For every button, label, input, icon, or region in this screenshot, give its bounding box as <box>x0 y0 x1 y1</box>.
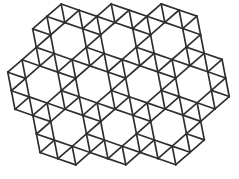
lattice-edge <box>208 72 226 78</box>
lattice-edge <box>8 60 22 72</box>
lattice-edge <box>33 29 37 48</box>
lattice-edge <box>211 78 225 90</box>
lattice-edge <box>36 47 40 66</box>
lattice-edge <box>161 78 175 90</box>
lattice-edge <box>29 97 33 116</box>
lattice-edge <box>179 97 197 103</box>
lattice-edge <box>108 60 122 72</box>
lattice-edge <box>172 47 186 59</box>
lattice-edges <box>8 4 229 165</box>
lattice-edge <box>136 47 140 66</box>
lattice-edge <box>47 4 61 16</box>
lattice-edge <box>126 66 140 78</box>
lattice-edge <box>72 60 76 79</box>
lattice-edge <box>151 109 165 121</box>
lattice-edge <box>197 16 201 35</box>
lattice-edge <box>140 152 158 158</box>
lattice-edge <box>72 134 86 146</box>
lattice-edge <box>197 90 211 102</box>
lattice-edge <box>86 47 104 53</box>
lattice-edge <box>33 29 51 35</box>
lattice-edge <box>136 47 154 53</box>
lattice-edge <box>51 122 55 141</box>
lattice-edge <box>97 16 101 35</box>
lattice-edge <box>165 10 179 22</box>
lattice-edge <box>76 78 80 97</box>
lattice-edge <box>190 66 208 72</box>
lattice-edge <box>204 53 222 59</box>
lattice-edge <box>172 60 176 79</box>
lattice-edge <box>136 134 140 153</box>
lattice-edge <box>158 72 162 91</box>
lattice-edge <box>47 103 51 122</box>
lattice-edge <box>172 60 190 66</box>
lattice-edge <box>154 140 158 159</box>
lattice-edge <box>22 60 26 79</box>
lattice-edge <box>201 121 205 140</box>
lattice-edge <box>129 97 147 103</box>
lattice-edge <box>86 35 100 47</box>
lattice-edge <box>97 4 111 16</box>
lattice-edge <box>208 59 222 71</box>
lattice-edge <box>104 53 122 59</box>
lattice-edge <box>97 16 115 22</box>
lattice-edge <box>86 134 90 153</box>
lattice-edge <box>97 91 111 103</box>
lattice-edge <box>8 72 12 91</box>
lattice-edge <box>122 146 140 152</box>
lattice-edge <box>33 16 47 28</box>
lattice-edge <box>61 4 65 23</box>
lattice-edge <box>126 78 130 97</box>
lattice-edge <box>108 146 122 158</box>
lattice-edge <box>108 159 126 165</box>
lattice-edge <box>186 121 200 133</box>
hexagonal-lattice-figure <box>0 0 239 179</box>
lattice-edge <box>90 66 108 72</box>
lattice-edge <box>36 122 50 134</box>
lattice-edge <box>197 103 201 122</box>
lattice-edge <box>111 78 125 90</box>
lattice-edge <box>40 153 58 159</box>
lattice-edge <box>115 97 129 109</box>
lattice-edge <box>22 47 36 59</box>
lattice-edge <box>97 103 115 109</box>
lattice-edge <box>154 53 172 59</box>
lattice-edge <box>140 53 154 65</box>
lattice-edge <box>58 72 62 91</box>
lattice-edge <box>47 16 65 22</box>
lattice-edge <box>208 72 212 91</box>
lattice-edge <box>79 10 83 29</box>
lattice-edge <box>172 134 186 146</box>
lattice-edge <box>190 53 204 65</box>
lattice-edge <box>186 35 200 47</box>
lattice-edge <box>40 54 54 66</box>
lattice-edge <box>72 60 90 66</box>
lattice-edge <box>40 140 54 152</box>
lattice-edge <box>111 91 129 97</box>
lattice-edge <box>201 35 205 54</box>
lattice-edge <box>86 134 104 140</box>
lattice-edge <box>222 59 226 78</box>
lattice-edge <box>161 4 165 23</box>
lattice-edge <box>158 146 172 158</box>
lattice-edge <box>136 35 150 47</box>
lattice-edge <box>133 115 151 121</box>
lattice-edge <box>115 10 129 22</box>
lattice-edge <box>90 53 104 65</box>
lattice-edge <box>40 66 58 72</box>
lattice-edge <box>165 97 179 109</box>
lattice-edge <box>147 16 151 35</box>
lattice-edge <box>61 91 79 97</box>
lattice-edge <box>147 103 151 122</box>
lattice-edge <box>211 90 215 109</box>
lattice-edge <box>97 103 101 122</box>
lattice-edge <box>201 109 215 121</box>
lattice-edge <box>215 97 229 109</box>
lattice-edge <box>136 134 154 140</box>
lattice-edge <box>133 29 151 35</box>
lattice-edge <box>61 91 65 110</box>
lattice-edge <box>51 35 55 54</box>
lattice-edge <box>154 140 172 146</box>
lattice-edge <box>151 22 165 34</box>
lattice-edge <box>147 4 161 16</box>
